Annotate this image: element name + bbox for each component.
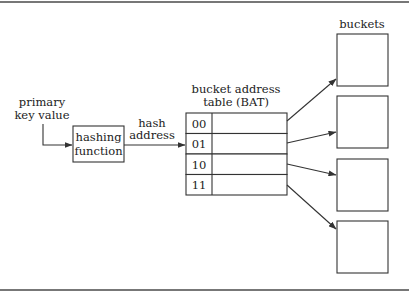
bat-row-key: 01 — [192, 137, 207, 151]
bucket-2 — [337, 96, 388, 148]
bat-row-key: 10 — [192, 158, 207, 172]
input-label-line1: primary — [19, 95, 66, 109]
input-label-line2: key value — [14, 108, 69, 122]
bat-row-key: 11 — [192, 178, 207, 192]
bucket-address-table: 00011011 — [186, 113, 287, 195]
pointer-arrow-10 — [287, 164, 336, 175]
hashing-diagram: primary key value hashing function hash … — [0, 0, 409, 292]
buckets-group — [337, 34, 388, 273]
hash-function-label-line1: hashing — [75, 130, 122, 144]
buckets-label: buckets — [339, 17, 385, 31]
input-arrow — [43, 124, 72, 145]
bucket-3 — [337, 159, 388, 211]
bucket-4 — [337, 221, 388, 273]
bat-row: 00 — [186, 113, 287, 134]
pointer-arrows — [287, 79, 336, 229]
pointer-arrow-01 — [287, 132, 336, 143]
bat-row-key: 00 — [192, 117, 207, 131]
bat-row: 11 — [186, 175, 287, 196]
bat-row: 10 — [186, 154, 287, 175]
hash-function-label-line2: function — [74, 144, 123, 158]
hash-address-label-line2: address — [129, 128, 175, 142]
bucket-1 — [337, 34, 388, 86]
bat-row: 01 — [186, 134, 287, 155]
pointer-arrow-11 — [287, 185, 336, 229]
bat-label-line1: bucket address — [192, 82, 281, 96]
pointer-arrow-00 — [287, 79, 336, 121]
bat-label-line2: table (BAT) — [203, 95, 269, 109]
